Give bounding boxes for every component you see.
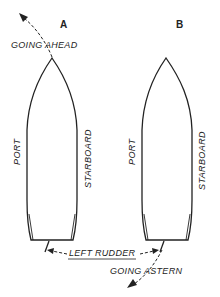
ship-a-label: A: [60, 19, 67, 30]
going-ahead-label: GOING AHEAD: [11, 40, 77, 50]
ship-b-starboard-label: STARBOARD: [197, 131, 207, 190]
going-astern-label: GOING ASTERN: [110, 266, 182, 276]
ship-b-port-label: PORT: [127, 139, 137, 165]
going-ahead-arrow: [19, 13, 52, 57]
ship-b-hull: [142, 58, 192, 240]
ship-a-port-label: PORT: [12, 139, 22, 165]
left-rudder-arrow-a: [47, 248, 67, 254]
left-rudder-arrow-b: [140, 248, 159, 254]
left-rudder-label: LEFT RUDDER: [69, 248, 135, 258]
ship-b-label: B: [176, 19, 183, 30]
ship-a-hull: [27, 58, 77, 240]
ship-a-starboard-label: STARBOARD: [83, 129, 93, 188]
